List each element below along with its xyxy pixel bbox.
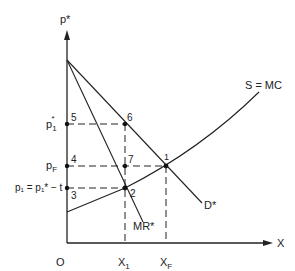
point-label-4: 4: [71, 155, 77, 165]
point-2: [123, 186, 128, 191]
supply-curve-label: S = MC: [245, 80, 282, 91]
point-label-7: 7: [128, 155, 134, 165]
supply-mc-curve: [67, 92, 259, 212]
x-axis-arrow-icon: [263, 240, 273, 246]
point-5: [65, 122, 69, 126]
origin-label: O: [56, 257, 65, 268]
p1-equation-label: p₁ = p₁* − t: [15, 183, 62, 193]
point-label-2: 2: [130, 189, 136, 199]
y-axis-arrow-icon: [64, 30, 70, 40]
demand-curve-label: D*: [204, 200, 216, 211]
point-4: [65, 164, 69, 168]
mr-curve-label: MR*: [133, 221, 154, 232]
point-label-6: 6: [127, 113, 133, 123]
demand-curve: [67, 60, 202, 203]
point-label-3: 3: [71, 191, 77, 201]
point-label-5: 5: [71, 113, 77, 123]
point-1: [164, 164, 169, 169]
point-7: [123, 164, 127, 168]
pF-label: pF: [46, 160, 57, 174]
x-axis-label: X: [277, 238, 284, 249]
xF-label: XF: [160, 257, 172, 271]
p1-star-label: p1*: [46, 117, 60, 133]
point-label-1: 1: [164, 153, 169, 162]
point-3: [65, 186, 69, 190]
y-axis-label: p*: [60, 14, 70, 25]
x1-label: X1: [118, 257, 130, 271]
